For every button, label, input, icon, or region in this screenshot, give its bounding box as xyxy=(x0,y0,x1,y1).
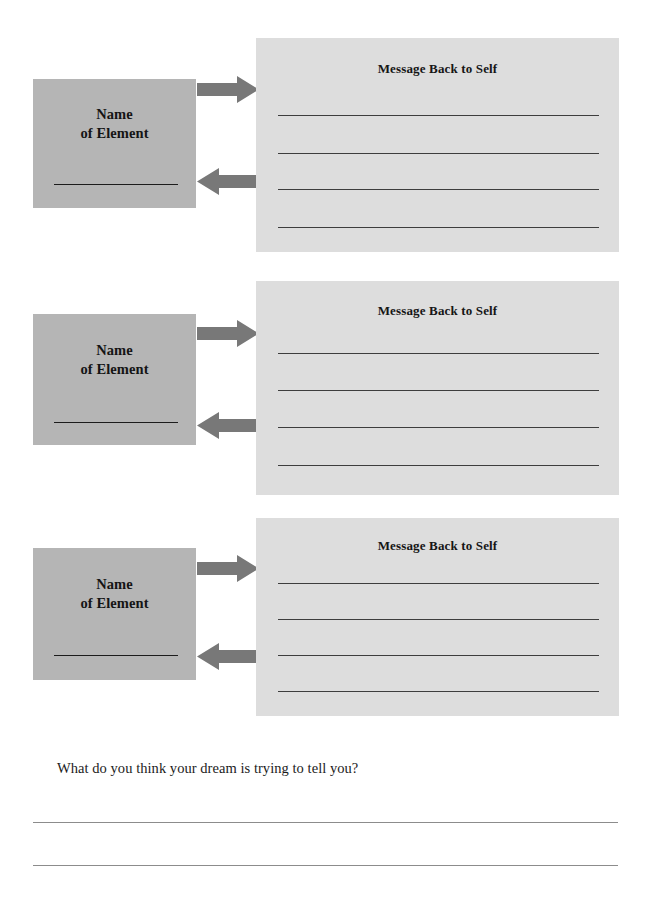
name-fill-in-line[interactable] xyxy=(54,655,178,656)
name-label-line-2: of Element xyxy=(80,595,148,611)
message-write-line[interactable] xyxy=(278,189,599,190)
element-block: Name of Element Message Back to Self xyxy=(0,38,649,253)
name-label-line-1: Name xyxy=(96,106,133,122)
message-write-line[interactable] xyxy=(278,583,599,584)
worksheet-page: Name of Element Message Back to Self xyxy=(0,0,649,910)
message-back-to-self-card[interactable]: Message Back to Self xyxy=(256,38,619,252)
arrow-left-icon xyxy=(197,412,259,439)
name-fill-in-line[interactable] xyxy=(54,422,178,423)
name-label-line-1: Name xyxy=(96,576,133,592)
message-write-line[interactable] xyxy=(278,655,599,656)
message-write-line[interactable] xyxy=(278,427,599,428)
name-label-line-2: of Element xyxy=(80,361,148,377)
name-of-element-card[interactable]: Name of Element xyxy=(33,548,196,680)
arrow-right-icon xyxy=(197,320,259,347)
name-of-element-label: Name of Element xyxy=(33,341,196,379)
arrow-right-icon xyxy=(197,555,259,582)
element-block: Name of Element Message Back to Self xyxy=(0,518,649,716)
message-card-title: Message Back to Self xyxy=(256,303,619,319)
reflection-question-text: What do you think your dream is trying t… xyxy=(57,760,358,777)
arrow-left-icon xyxy=(197,168,259,195)
arrow-right-icon xyxy=(197,76,259,103)
name-of-element-label: Name of Element xyxy=(33,575,196,613)
name-of-element-card[interactable]: Name of Element xyxy=(33,79,196,208)
reflection-answer-line[interactable] xyxy=(33,865,618,866)
message-write-line[interactable] xyxy=(278,465,599,466)
message-write-line[interactable] xyxy=(278,115,599,116)
arrow-left-icon xyxy=(197,643,259,670)
message-card-title: Message Back to Self xyxy=(256,61,619,77)
name-label-line-2: of Element xyxy=(80,125,148,141)
name-of-element-label: Name of Element xyxy=(33,105,196,143)
message-write-line[interactable] xyxy=(278,153,599,154)
message-card-title: Message Back to Self xyxy=(256,538,619,554)
name-fill-in-line[interactable] xyxy=(54,184,178,185)
message-write-line[interactable] xyxy=(278,353,599,354)
name-label-line-1: Name xyxy=(96,342,133,358)
message-write-line[interactable] xyxy=(278,227,599,228)
element-block: Name of Element Message Back to Self xyxy=(0,281,649,496)
reflection-answer-line[interactable] xyxy=(33,822,618,823)
message-back-to-self-card[interactable]: Message Back to Self xyxy=(256,518,619,716)
name-of-element-card[interactable]: Name of Element xyxy=(33,314,196,445)
message-back-to-self-card[interactable]: Message Back to Self xyxy=(256,281,619,495)
message-write-line[interactable] xyxy=(278,691,599,692)
message-write-line[interactable] xyxy=(278,619,599,620)
message-write-line[interactable] xyxy=(278,390,599,391)
